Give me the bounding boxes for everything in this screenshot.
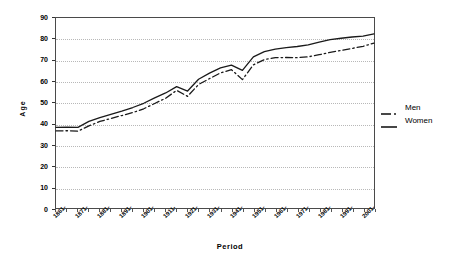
y-tick-label: 70 <box>26 56 48 63</box>
x-tick-mark <box>154 209 155 212</box>
y-tick-label: 40 <box>26 120 48 127</box>
series-line-women <box>56 34 374 128</box>
y-tick-label: 60 <box>26 78 48 85</box>
legend-swatch-women <box>381 117 401 125</box>
x-axis-title: Period <box>155 242 305 251</box>
chart-legend: Men Women <box>381 101 453 127</box>
y-tick-label: 80 <box>26 35 48 42</box>
plot-area <box>55 17 375 209</box>
y-tick-label: 10 <box>26 184 48 191</box>
y-tick-label: 30 <box>26 142 48 149</box>
life-expectancy-line-chart: Age 9080706050403020100 1861-1871-1881-1… <box>0 0 455 262</box>
legend-item-women: Women <box>381 114 453 127</box>
x-tick-mark <box>221 209 222 212</box>
legend-label-men: Men <box>405 104 421 112</box>
legend-label-women: Women <box>405 117 432 125</box>
series-line-men <box>56 43 374 131</box>
x-tick-mark <box>331 209 332 212</box>
x-tick-mark <box>353 209 354 212</box>
x-tick-mark <box>375 209 376 212</box>
x-tick-mark <box>198 209 199 212</box>
x-tick-mark <box>265 209 266 212</box>
x-tick-mark <box>132 209 133 212</box>
x-tick-mark <box>88 209 89 212</box>
x-tick-mark <box>287 209 288 212</box>
x-tick-mark <box>176 209 177 212</box>
x-tick-mark <box>66 209 67 212</box>
series-paths <box>56 18 374 208</box>
y-tick-label: 20 <box>26 163 48 170</box>
legend-swatch-men <box>381 104 401 112</box>
x-tick-mark <box>110 209 111 212</box>
y-tick-label: 0 <box>26 206 48 213</box>
x-tick-mark <box>243 209 244 212</box>
x-tick-mark <box>309 209 310 212</box>
y-tick-label: 90 <box>26 14 48 21</box>
y-tick-label: 50 <box>26 99 48 106</box>
legend-item-men: Men <box>381 101 453 114</box>
y-axis-title: Age <box>19 89 26 129</box>
